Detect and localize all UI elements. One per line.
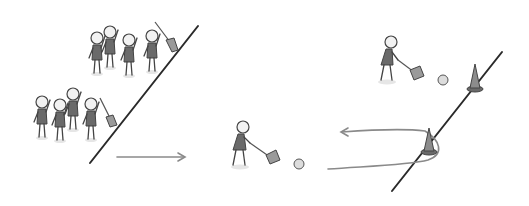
- ball-icon: [438, 75, 448, 85]
- broom-icon: [250, 143, 280, 164]
- sweeping-player: [378, 36, 424, 85]
- player-figure: [52, 99, 68, 143]
- player-figure: [144, 30, 160, 74]
- illustration-canvas: [0, 0, 529, 206]
- player-figure: [34, 96, 50, 140]
- relay-illustration: [0, 0, 529, 206]
- sweeping-player: [231, 121, 280, 170]
- team-bottom: [34, 88, 117, 143]
- cone-icon: [421, 128, 437, 155]
- broom-icon: [398, 60, 424, 80]
- return-path-arrow: [328, 128, 439, 169]
- ball-icon: [294, 159, 304, 169]
- player-figure: [83, 98, 99, 142]
- forward-arrow: [117, 153, 185, 161]
- turn-line: [392, 52, 502, 191]
- player-figure: [65, 88, 81, 132]
- player-figure: [121, 34, 137, 78]
- player-figure: [89, 32, 105, 76]
- player-figure: [102, 26, 118, 70]
- broom-icon: [100, 98, 117, 127]
